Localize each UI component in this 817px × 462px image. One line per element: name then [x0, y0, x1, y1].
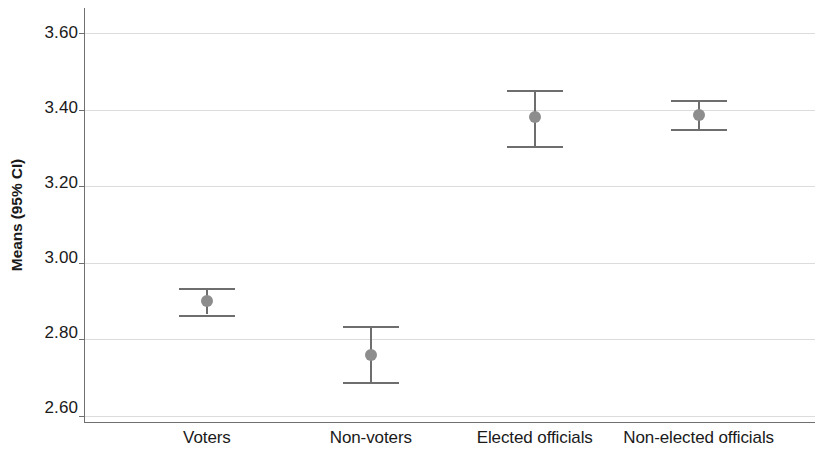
y-tick-label: 2.60	[20, 398, 78, 418]
gridline	[85, 186, 815, 187]
gridline	[85, 339, 815, 340]
error-bar-cap-upper	[343, 326, 399, 328]
mean-marker	[529, 111, 541, 123]
x-tick-label: Non-elected officials	[623, 428, 774, 448]
error-bar-cap-lower	[671, 129, 727, 131]
gridline	[85, 416, 815, 417]
error-bar-cap-lower	[179, 315, 235, 317]
y-axis-tickmark	[79, 263, 84, 264]
confidence-interval-chart: Means (95% CI) 3.60 3.40 3.20 3.00 2.80 …	[0, 0, 817, 462]
plot-area	[84, 8, 815, 423]
y-tick-label: 3.20	[20, 173, 78, 193]
mean-marker	[365, 349, 377, 361]
x-axis-tick-labels: VotersNon-votersElected officialsNon-ele…	[84, 428, 815, 458]
y-axis-tickmark	[79, 339, 84, 340]
gridline	[85, 110, 815, 111]
y-axis-tickmark	[79, 416, 84, 417]
error-bar-cap-upper	[671, 100, 727, 102]
y-tick-label: 3.40	[20, 98, 78, 118]
mean-marker	[201, 295, 213, 307]
y-axis-tickmark	[79, 110, 84, 111]
y-tick-label: 3.60	[20, 23, 78, 43]
x-tick-label: Non-voters	[330, 428, 412, 448]
y-tick-label: 2.80	[20, 323, 78, 343]
x-tick-label: Elected officials	[477, 428, 593, 448]
x-tick-label: Voters	[183, 428, 231, 448]
error-bar-cap-upper	[507, 90, 563, 92]
y-axis-tick-labels: 3.60 3.40 3.20 3.00 2.80 2.60	[20, 0, 78, 462]
y-axis-tickmark	[79, 33, 84, 34]
y-axis-tickmark	[79, 186, 84, 187]
error-bar-cap-lower	[343, 382, 399, 384]
mean-marker	[693, 109, 705, 121]
y-tick-label: 3.00	[20, 248, 78, 268]
error-bar-cap-lower	[507, 146, 563, 148]
gridline	[85, 33, 815, 34]
x-axis-line	[84, 422, 815, 423]
gridline	[85, 263, 815, 264]
y-axis-line	[84, 8, 85, 423]
error-bar-cap-upper	[179, 288, 235, 290]
